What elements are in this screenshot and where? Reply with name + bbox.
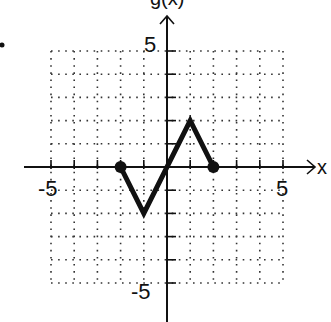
endpoint-dot	[207, 161, 219, 173]
y-axis-label: g(x)	[150, 0, 184, 8]
function-graph	[0, 0, 331, 322]
x-tick-label-5: 5	[276, 178, 288, 200]
y-tick-label-5: 5	[144, 34, 156, 56]
x-tick-label-neg5: -5	[38, 178, 58, 200]
endpoint-dot	[115, 161, 127, 173]
x-axis-label: x	[317, 157, 327, 177]
y-tick-label-neg5: -5	[131, 281, 151, 303]
bullet-mark	[0, 43, 5, 48]
